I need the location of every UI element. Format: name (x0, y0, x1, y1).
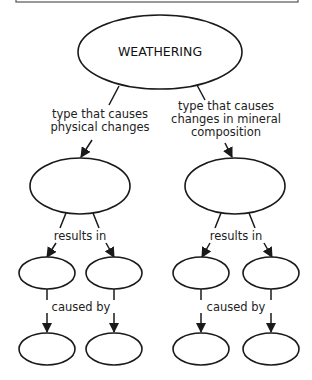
physical-result-node-1[interactable] (19, 257, 75, 289)
chemical-results-line-left (215, 213, 221, 228)
physical-cause-node-2[interactable] (86, 333, 142, 365)
branch-chemical: type that causes changes in mineral comp… (171, 85, 299, 365)
root-label: WEATHERING (118, 44, 202, 59)
chemical-cause-node-1[interactable] (173, 333, 229, 365)
physical-cause-label: caused by (52, 300, 111, 314)
root-node: WEATHERING (78, 15, 242, 89)
chemical-results-label: results in (210, 229, 263, 243)
branch-physical: type that causes physical changes result… (19, 86, 150, 365)
chemical-link-label-line-1: type that causes (178, 99, 274, 113)
weathering-concept-map: WEATHERING type that causes physical cha… (0, 0, 312, 380)
physical-results-line-right (93, 213, 99, 228)
chemical-node[interactable] (185, 158, 285, 214)
chemical-results-line-right (249, 213, 255, 228)
physical-result-node-2[interactable] (86, 257, 142, 289)
physical-cause-node-1[interactable] (19, 333, 75, 365)
physical-node[interactable] (30, 158, 130, 214)
physical-link-arrow (81, 140, 92, 157)
top-box-frame (16, 0, 298, 2)
chemical-link-arrow (225, 143, 232, 157)
physical-results-label: results in (54, 229, 107, 243)
chemical-cause-label: caused by (207, 300, 266, 314)
root-to-physical-link-line (109, 86, 119, 105)
physical-link-label-line-1: type that causes (52, 107, 148, 121)
chemical-results-arrow-left (202, 243, 210, 257)
chemical-link-label-line-3: composition (191, 125, 261, 139)
chemical-result-node-1[interactable] (173, 257, 229, 289)
physical-results-arrow-left (47, 243, 56, 257)
chemical-results-arrow-right (264, 243, 272, 257)
chemical-link-label-line-2: changes in mineral (171, 112, 281, 126)
chemical-cause-node-2[interactable] (243, 333, 299, 365)
physical-link-label-line-2: physical changes (50, 120, 149, 134)
physical-results-arrow-right (106, 243, 114, 257)
chemical-result-node-2[interactable] (243, 257, 299, 289)
physical-results-line-left (60, 213, 66, 228)
